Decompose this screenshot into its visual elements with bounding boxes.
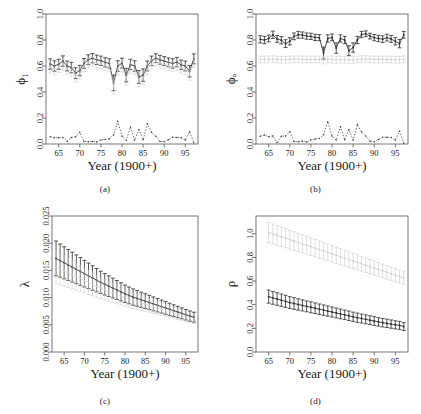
panel-a-caption: (a) — [0, 184, 210, 194]
svg-text:Year (1900+): Year (1900+) — [90, 366, 159, 381]
svg-text:65: 65 — [264, 148, 273, 158]
svg-text:0.015: 0.015 — [41, 261, 51, 280]
svg-text:75: 75 — [97, 148, 106, 158]
svg-text:90: 90 — [161, 356, 170, 366]
svg-text:0.2: 0.2 — [35, 113, 45, 124]
svg-text:0.010: 0.010 — [41, 288, 51, 307]
svg-text:0.6: 0.6 — [35, 61, 45, 72]
svg-text:80: 80 — [121, 356, 130, 366]
svg-text:65: 65 — [54, 148, 63, 158]
svg-text:95: 95 — [391, 356, 400, 366]
panel-b-plot: 657075808590950.00.20.40.60.81.0ϕₐYear (… — [210, 0, 421, 200]
svg-text:85: 85 — [141, 356, 150, 366]
panel-c-plot: 657075808590950.0000.0050.0100.0150.0200… — [0, 200, 210, 414]
svg-text:0.2: 0.2 — [245, 323, 255, 334]
svg-text:ρ: ρ — [223, 281, 238, 288]
svg-text:1.0: 1.0 — [245, 228, 255, 239]
svg-text:0.2: 0.2 — [245, 113, 255, 124]
svg-text:0.0: 0.0 — [35, 139, 45, 150]
panel-b-caption: (b) — [210, 184, 421, 194]
svg-text:75: 75 — [100, 356, 109, 366]
panel-b: 657075808590950.00.20.40.60.81.0ϕₐYear (… — [210, 0, 421, 200]
svg-text:80: 80 — [328, 148, 337, 158]
svg-text:80: 80 — [328, 356, 337, 366]
svg-text:95: 95 — [182, 356, 191, 366]
svg-text:0.020: 0.020 — [41, 234, 51, 253]
svg-text:1.0: 1.0 — [35, 9, 45, 20]
svg-text:0.4: 0.4 — [35, 86, 45, 97]
svg-text:95: 95 — [391, 148, 400, 158]
svg-text:85: 85 — [349, 356, 358, 366]
svg-text:0.6: 0.6 — [245, 61, 255, 72]
svg-text:0.025: 0.025 — [41, 206, 51, 225]
svg-text:0.0: 0.0 — [245, 139, 255, 150]
panel-d-caption: (d) — [210, 396, 421, 406]
panel-d: 657075808590950.00.20.40.60.81.0ρYear (1… — [210, 200, 421, 414]
svg-text:λ: λ — [17, 280, 32, 287]
svg-text:Year (1900+): Year (1900+) — [297, 366, 366, 381]
svg-text:95: 95 — [181, 148, 190, 158]
panel-d-plot: 657075808590950.00.20.40.60.81.0ρYear (1… — [210, 200, 421, 414]
svg-text:0.8: 0.8 — [245, 35, 255, 46]
svg-text:0.8: 0.8 — [245, 252, 255, 263]
svg-text:90: 90 — [160, 148, 169, 158]
svg-text:ϕₐ: ϕₐ — [223, 73, 238, 84]
svg-text:75: 75 — [307, 356, 316, 366]
panel-a: 657075808590950.00.20.40.60.81.0ϕ₁Year (… — [0, 0, 210, 200]
figure-container: 657075808590950.00.20.40.60.81.0ϕ₁Year (… — [0, 0, 421, 414]
panel-c-caption: (c) — [0, 396, 210, 406]
panel-c: 657075808590950.0000.0050.0100.0150.0200… — [0, 200, 210, 414]
svg-text:0.000: 0.000 — [41, 342, 51, 361]
svg-text:ϕ₁: ϕ₁ — [13, 73, 28, 84]
svg-text:0.0: 0.0 — [245, 347, 255, 358]
svg-text:65: 65 — [264, 356, 273, 366]
svg-text:0.8: 0.8 — [35, 35, 45, 46]
svg-text:90: 90 — [370, 356, 379, 366]
panel-a-plot: 657075808590950.00.20.40.60.81.0ϕ₁Year (… — [0, 0, 210, 200]
svg-text:Year (1900+): Year (1900+) — [87, 158, 156, 173]
svg-text:70: 70 — [286, 148, 295, 158]
svg-text:0.4: 0.4 — [245, 86, 255, 97]
svg-text:85: 85 — [349, 148, 358, 158]
svg-text:80: 80 — [118, 148, 127, 158]
svg-text:65: 65 — [60, 356, 69, 366]
svg-text:70: 70 — [80, 356, 89, 366]
svg-text:75: 75 — [307, 148, 316, 158]
svg-text:0.4: 0.4 — [245, 299, 255, 310]
svg-text:70: 70 — [76, 148, 85, 158]
svg-text:90: 90 — [370, 148, 379, 158]
svg-text:85: 85 — [139, 148, 148, 158]
svg-text:0.6: 0.6 — [245, 276, 255, 287]
svg-text:1.0: 1.0 — [245, 9, 255, 20]
svg-text:70: 70 — [286, 356, 295, 366]
svg-text:0.005: 0.005 — [41, 315, 51, 334]
svg-text:Year (1900+): Year (1900+) — [297, 158, 366, 173]
